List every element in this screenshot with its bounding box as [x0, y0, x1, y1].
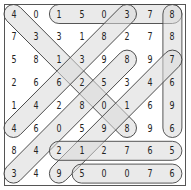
grid-cell[interactable]: 8 — [164, 26, 182, 48]
grid-cell[interactable]: 5 — [95, 71, 113, 93]
grid-cell[interactable]: 2 — [50, 140, 68, 162]
found-sequence-highlight — [49, 141, 182, 160]
grid-cell[interactable]: 6 — [164, 163, 182, 185]
grid-cell[interactable]: 8 — [27, 49, 45, 71]
grid-cell[interactable]: 8 — [5, 140, 23, 162]
grid-cell[interactable]: 0 — [95, 94, 113, 116]
grid-cell[interactable]: 7 — [164, 49, 182, 71]
grid-cell[interactable]: 1 — [5, 94, 23, 116]
grid-cell[interactable]: 7 — [118, 140, 136, 162]
grid-cell[interactable]: 2 — [118, 26, 136, 48]
grid-cell[interactable]: 2 — [5, 71, 23, 93]
grid-cell[interactable]: 3 — [27, 26, 45, 48]
grid-cell[interactable]: 6 — [141, 94, 159, 116]
grid-cell[interactable]: 0 — [50, 117, 68, 139]
grid-cell[interactable]: 0 — [95, 163, 113, 185]
grid-cell[interactable]: 5 — [5, 49, 23, 71]
grid-cell[interactable]: 9 — [141, 117, 159, 139]
grid-cell[interactable]: 0 — [118, 163, 136, 185]
grid-cell[interactable]: 6 — [164, 71, 182, 93]
grid-cell[interactable]: 1 — [73, 26, 91, 48]
grid-cell[interactable]: 2 — [73, 71, 91, 93]
grid-cell[interactable]: 2 — [50, 94, 68, 116]
grid-cell[interactable]: 4 — [141, 71, 159, 93]
grid-cell[interactable]: 1 — [50, 49, 68, 71]
grid-cell[interactable]: 4 — [5, 117, 23, 139]
grid-cell[interactable]: 6 — [164, 117, 182, 139]
grid-cell[interactable]: 9 — [95, 49, 113, 71]
grid-cell[interactable]: 1 — [73, 140, 91, 162]
grid-cell[interactable]: 7 — [141, 26, 159, 48]
grid-cell[interactable]: 2 — [95, 140, 113, 162]
grid-cell[interactable]: 9 — [95, 117, 113, 139]
grid-cell[interactable]: 8 — [118, 117, 136, 139]
grid-cell[interactable]: 3 — [118, 3, 136, 25]
grid-cell[interactable]: 5 — [73, 163, 91, 185]
grid-cell[interactable]: 4 — [27, 94, 45, 116]
grid-cell[interactable]: 9 — [141, 49, 159, 71]
grid-cell[interactable]: 3 — [73, 49, 91, 71]
grid-cell[interactable]: 7 — [141, 3, 159, 25]
grid-cell[interactable]: 8 — [118, 49, 136, 71]
grid-cell[interactable]: 6 — [50, 71, 68, 93]
grid-cell[interactable]: 5 — [73, 3, 91, 25]
grid-cell[interactable]: 8 — [164, 3, 182, 25]
grid-cell[interactable]: 0 — [95, 3, 113, 25]
grid-cell[interactable]: 6 — [27, 71, 45, 93]
grid-cell[interactable]: 9 — [164, 94, 182, 116]
grid-cell[interactable]: 6 — [27, 117, 45, 139]
grid-cell[interactable]: 7 — [141, 163, 159, 185]
grid-cell[interactable]: 6 — [141, 140, 159, 162]
grid-cell[interactable]: 8 — [95, 26, 113, 48]
grid-cell[interactable]: 5 — [164, 140, 182, 162]
grid-cell[interactable]: 3 — [118, 71, 136, 93]
grid-cell[interactable]: 5 — [73, 117, 91, 139]
grid-cell[interactable]: 4 — [27, 140, 45, 162]
grid-cell[interactable]: 4 — [5, 3, 23, 25]
grid-cell[interactable]: 3 — [50, 26, 68, 48]
grid-cell[interactable]: 0 — [27, 3, 45, 25]
grid-cell[interactable]: 3 — [5, 163, 23, 185]
grid-cell[interactable]: 9 — [50, 163, 68, 185]
grid-cell[interactable]: 7 — [5, 26, 23, 48]
grid-cell[interactable]: 1 — [118, 94, 136, 116]
grid-cell[interactable]: 8 — [73, 94, 91, 116]
grid-cell[interactable]: 1 — [50, 3, 68, 25]
grid-cell[interactable]: 4 — [27, 163, 45, 185]
